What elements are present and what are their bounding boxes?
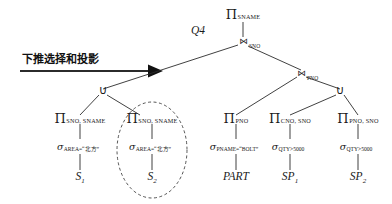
operator-subscript: PNO — [235, 117, 248, 124]
union-symbol: ∪ — [99, 83, 108, 97]
operator-subscript: AREA=“北方” — [135, 145, 171, 151]
node-relation-s2: S2 — [147, 171, 156, 184]
operator-subscript: AREA=“北方” — [63, 145, 99, 151]
operator-symbol: σ — [272, 141, 279, 152]
operator-subscript: QTY>5000 — [278, 145, 304, 151]
operator-symbol: σ — [129, 141, 136, 152]
join-symbol: ⋈ — [239, 36, 246, 46]
node-select-qty-sp2: σQTY>5000 — [340, 142, 373, 152]
relation-subscript: 2 — [363, 177, 367, 185]
relation-name: PART — [223, 170, 249, 182]
join-symbol: ⋈ — [297, 68, 304, 78]
query-label: Q4 — [191, 24, 205, 36]
operator-subscript: QTY>5000 — [346, 145, 372, 151]
node-relation-s1: S1 — [75, 171, 84, 184]
node-join-pno-label: PNO — [307, 75, 318, 81]
relation-name: SP — [282, 170, 295, 182]
operator-subscript: SNO, SNAME — [138, 117, 178, 124]
relation-subscript: 1 — [295, 177, 299, 185]
operator-subscript: PNO, SNO — [349, 117, 379, 124]
operator-subscript: PNAME=“BOLT” — [216, 145, 258, 151]
transform-arrow-icon — [20, 65, 163, 78]
node-project-s2: ΠSNO, SNAME — [127, 112, 178, 125]
node-project-sname: ΠSNAME — [226, 8, 261, 21]
operator-symbol: σ — [340, 141, 347, 152]
node-union-right: ∪ — [336, 84, 345, 96]
node-join-sno: ⋈ — [239, 37, 246, 46]
operator-symbol: σ — [210, 141, 217, 152]
node-union-left: ∪ — [99, 84, 108, 96]
operator-symbol: Π — [55, 111, 66, 126]
node-select-qty-sp1: σQTY>5000 — [272, 142, 305, 152]
node-join-sno-label: SNO — [249, 43, 260, 49]
union-symbol: ∪ — [336, 83, 345, 97]
node-project-pno-part: ΠPNO — [224, 112, 249, 125]
node-join-pno: ⋈ — [297, 69, 304, 78]
relation-name: SP — [350, 170, 363, 182]
relational-algebra-tree-diagram: 下推选择和投影 Q4 ΠSNAME ⋈ SNO ⋈ PNO ∪ ∪ ΠSNO, … — [0, 0, 392, 204]
node-relation-sp1: SP1 — [282, 171, 298, 184]
node-relation-sp2: SP2 — [350, 171, 366, 184]
operator-symbol: Π — [224, 111, 235, 126]
node-relation-part: PART — [223, 171, 249, 184]
node-select-pname: σPNAME=“BOLT” — [210, 142, 259, 152]
operator-subscript: CNO, SNO — [280, 117, 311, 124]
transform-caption: 下推选择和投影 — [22, 50, 99, 66]
operator-symbol: Π — [269, 111, 280, 126]
operator-symbol: Π — [127, 111, 138, 126]
node-project-s1: ΠSNO, SNAME — [55, 112, 106, 125]
node-project-pno-sno: ΠPNO, SNO — [337, 112, 378, 125]
node-select-s2: σAREA=“北方” — [129, 142, 171, 152]
relation-subscript: 1 — [81, 177, 85, 185]
node-project-cno-sno: ΠCNO, SNO — [269, 112, 311, 125]
operator-symbol: σ — [57, 141, 64, 152]
operator-symbol: Π — [337, 111, 348, 126]
operator-subscript: SNAME — [237, 13, 260, 20]
node-select-s1: σAREA=“北方” — [57, 142, 99, 152]
operator-subscript: SNO, SNAME — [66, 117, 106, 124]
operator-symbol: Π — [226, 7, 237, 22]
relation-subscript: 2 — [153, 177, 157, 185]
